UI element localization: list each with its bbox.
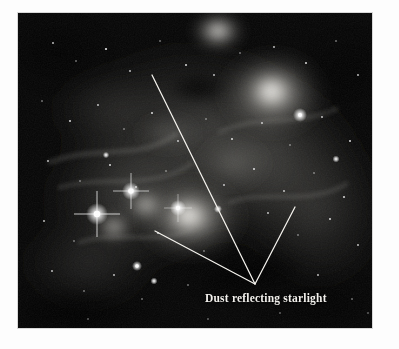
astronomy-photo-plate: Dust reflecting starlight	[18, 13, 372, 328]
figure-page: Dust reflecting starlight	[0, 0, 399, 349]
annotation-label-dust-reflecting-starlight: Dust reflecting starlight	[205, 292, 365, 305]
nebula-image	[18, 13, 372, 328]
film-grain	[18, 13, 372, 328]
